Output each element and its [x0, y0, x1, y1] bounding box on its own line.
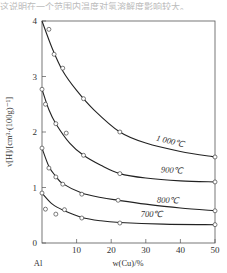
data-point-marker — [64, 131, 68, 135]
data-point-marker — [40, 87, 44, 91]
x-tick-label: 30 — [141, 245, 151, 255]
data-point-marker — [80, 216, 84, 220]
data-point-marker — [116, 198, 120, 202]
data-point-marker — [54, 175, 58, 179]
data-point-marker — [82, 153, 86, 157]
data-point-marker — [80, 192, 84, 196]
data-point-marker — [43, 207, 47, 211]
x-tick-label: 10 — [72, 245, 82, 255]
curve-label: 800℃ — [157, 194, 181, 205]
data-point-marker — [82, 97, 86, 101]
y-tick-label: 4 — [33, 16, 38, 26]
x-tick-label: 50 — [211, 245, 221, 255]
y-tick-label: 0 — [33, 238, 38, 248]
data-point-marker — [61, 182, 65, 186]
data-point-marker — [40, 146, 44, 150]
y-tick-label: 2 — [33, 127, 38, 137]
hydrogen-solubility-chart: 012341020304050 1 000℃900℃800℃700℃ v[H]/… — [0, 0, 227, 273]
curve-label: 900℃ — [161, 164, 185, 176]
data-point-marker — [62, 208, 66, 212]
data-point-marker — [52, 52, 56, 56]
y-axis-label: v[H]/[cm³·(100g)⁻¹] — [4, 97, 14, 167]
data-point-marker — [47, 166, 51, 170]
y-tick-label: 3 — [33, 72, 38, 82]
data-point-marker — [54, 122, 58, 126]
data-point-marker — [118, 221, 122, 225]
y-tick-label: 1 — [33, 183, 38, 193]
data-point-marker — [40, 191, 44, 195]
x-axis-label: w(Cu)/% — [112, 258, 143, 268]
curve-label: 700℃ — [141, 209, 165, 219]
data-point-marker — [213, 155, 217, 159]
series-line — [42, 89, 215, 182]
data-point-marker — [213, 180, 217, 184]
x-tick-label: 40 — [176, 245, 186, 255]
data-point-marker — [213, 223, 217, 227]
series-curves — [42, 21, 215, 225]
data-point-marker — [213, 209, 217, 213]
data-point-marker — [43, 102, 47, 106]
data-point-marker — [118, 172, 122, 176]
series-line — [42, 21, 215, 157]
x-tick-label: 20 — [107, 245, 117, 255]
data-markers — [40, 27, 217, 226]
x-origin-label-al: Al — [34, 258, 43, 268]
data-point-marker — [61, 66, 65, 70]
data-point-marker — [54, 212, 58, 216]
data-point-marker — [47, 27, 51, 31]
series-line — [42, 148, 215, 211]
data-point-marker — [118, 130, 122, 134]
